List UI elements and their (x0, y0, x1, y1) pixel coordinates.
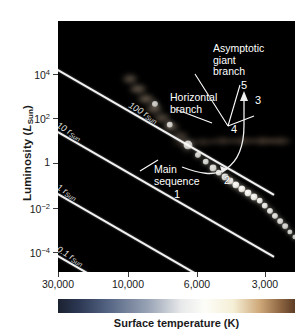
y-tick-label: 10−4 (6, 246, 50, 258)
hr-diagram-figure: Luminosity (LSun) 104102110−210−4 30,000… (0, 0, 307, 335)
y-axis-title: Luminosity (LSun) (21, 63, 35, 243)
stage-number-4: 4 (231, 123, 237, 135)
x-tick-mark (265, 272, 266, 277)
y-tick-label: 1 (6, 157, 50, 167)
x-axis-title: Surface temperature (K) (58, 317, 295, 329)
plot-panel: 100 rSun10 rSun1 rSun0.1 rSun Asymptotic… (58, 21, 295, 272)
x-tick-mark (58, 272, 59, 277)
y-tick-label: 10−2 (6, 202, 50, 214)
x-tick-label: 30,000 (42, 278, 74, 290)
stage5-leader-line (228, 85, 240, 126)
y-tick-label: 104 (6, 68, 50, 80)
y-tick-label: 102 (6, 112, 50, 124)
stage-number-5: 5 (241, 79, 247, 91)
stage-number-2: 2 (224, 174, 230, 186)
annotation-horizontal-branch: Horizontal branch (170, 92, 217, 115)
x-tick-mark (128, 272, 129, 277)
x-tick-label: 3,000 (252, 278, 278, 290)
track-arrow-to-stage3 (240, 91, 248, 101)
annotation-asymptotic-giant-branch: Asymptotic giant branch (213, 43, 264, 78)
x-tick-mark (197, 272, 198, 277)
stage-number-3: 3 (255, 94, 261, 106)
x-tick-label: 6,000 (184, 278, 210, 290)
stage-number-1: 1 (174, 188, 180, 200)
x-tick-label: 10,000 (112, 278, 144, 290)
temperature-colorbar (58, 299, 295, 313)
y-axis-title-italic: L (21, 124, 33, 131)
y-axis-title-close: ) (21, 105, 33, 109)
annotation-main-sequence: Main sequence (154, 164, 200, 187)
